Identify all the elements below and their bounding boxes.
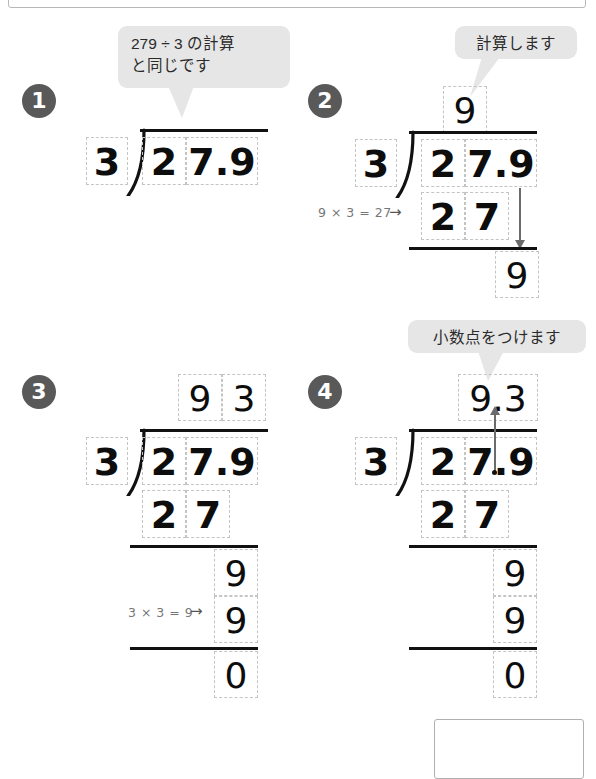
work-digit-step-3-1: 7 — [186, 490, 230, 538]
work-digit-step-2-0: 2 — [421, 192, 465, 240]
remainder-cell-step-3: 0 — [214, 651, 258, 698]
divisor-cell-step-1: 3 — [86, 137, 128, 185]
step-number-badge-2: 2 — [308, 84, 342, 118]
page-bottom-frame — [434, 719, 584, 779]
subtraction-rule-step-2 — [409, 247, 537, 250]
divisor-cell-step-3: 3 — [86, 437, 128, 485]
multiplication-hint-step-2: 9 × 3 = 27 — [318, 205, 392, 220]
subtraction-rule-1-step-3 — [130, 545, 258, 548]
bring-down-arrow-line-step-2 — [519, 188, 521, 243]
divisor-cell-step-4: 3 — [355, 437, 397, 485]
division-vinculum-step-1 — [140, 129, 268, 132]
remainder-cell-step-4: 0 — [493, 651, 537, 698]
callout-bubble-step-4: 小数点をつけます — [408, 320, 586, 353]
step-number-badge-4: 4 — [308, 375, 342, 409]
work-digit-step-3-0: 2 — [142, 490, 186, 538]
decimal-point-arrow-line-step-4 — [494, 412, 496, 474]
dividend-digit-step-4-1: 7.9 — [465, 437, 537, 485]
decimal-point-arrow-head-step-4 — [490, 406, 500, 415]
dividend-digit-step-2-1: 7.9 — [465, 139, 537, 187]
division-vinculum-step-2 — [409, 131, 537, 134]
division-vinculum-step-3 — [140, 429, 268, 432]
subtraction-rule-2-step-4 — [409, 647, 537, 650]
step-number-badge-1: 1 — [22, 84, 56, 118]
dividend-digit-step-3-0: 2 — [142, 437, 186, 485]
callout-tail-step-1 — [168, 86, 204, 118]
hint-arrow-step-3: → — [190, 602, 203, 620]
bring-down-cell-step-3: 9 — [214, 549, 258, 596]
dividend-digit-step-3-1: 7.9 — [186, 437, 258, 485]
division-bracket-step-4 — [393, 428, 421, 496]
division-vinculum-step-4 — [409, 429, 537, 432]
work-digit-step-2-1: 7 — [465, 192, 509, 240]
quotient-digit-step-2-0: 9 — [443, 86, 487, 133]
work-digit-step-4-0: 2 — [421, 490, 465, 538]
multiplication-hint-step-3: 3 × 3 = 9 — [128, 605, 193, 620]
callout-bubble-step-1: 279 ÷ 3 の計算 と同じです — [118, 26, 290, 88]
subtraction-rule-1-step-4 — [409, 545, 537, 548]
subtrahend-cell-step-3: 9 — [214, 596, 258, 643]
divisor-cell-step-2: 3 — [355, 139, 397, 187]
dividend-digit-step-1-1: 7.9 — [186, 137, 258, 185]
dividend-digit-step-4-0: 2 — [421, 437, 465, 485]
subtrahend-cell-step-4: 9 — [493, 596, 537, 643]
bring-down-cell-step-4: 9 — [493, 549, 537, 596]
subtraction-rule-2-step-3 — [130, 647, 258, 650]
page-top-frame — [8, 0, 586, 8]
quotient-digit-step-3-0: 9 — [178, 374, 222, 421]
callout-bubble-step-2: 計算します — [455, 26, 577, 59]
remainder-cell-step-2: 9 — [495, 251, 539, 298]
quotient-digit-step-3-1: 3 — [222, 374, 266, 421]
dividend-digit-step-2-0: 2 — [421, 139, 465, 187]
step-number-badge-3: 3 — [22, 375, 56, 409]
decimal-point-marker-step-4 — [492, 470, 497, 475]
work-digit-step-4-1: 7 — [465, 490, 509, 538]
division-bracket-step-2 — [393, 130, 421, 198]
hint-arrow-step-2: → — [389, 203, 402, 221]
dividend-digit-step-1-0: 2 — [142, 137, 186, 185]
